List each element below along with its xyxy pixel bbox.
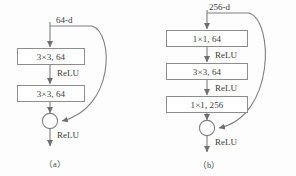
- block-conv-3x3-64-first: 3×3, 64: [17, 48, 85, 65]
- caption-a: （a）: [44, 157, 66, 169]
- block-conv-3x3-64: 3×3, 64: [166, 63, 248, 80]
- adder-node: [42, 113, 57, 128]
- relu-label-second: ReLU: [215, 84, 237, 93]
- adder-node: [199, 120, 214, 135]
- relu-label-middle: ReLU: [57, 69, 79, 78]
- block-conv-1x1-256: 1×1, 256: [166, 96, 248, 113]
- diagram-bottleneck-residual-block: 1×1, 64 3×3, 64 1×1, 256 256-d ReLU ReLU…: [148, 0, 296, 176]
- figure-canvas: 3×3, 64 3×3, 64 64-d ReLU ReLU （a） 1×1, …: [0, 0, 296, 176]
- diagram-basic-residual-block: 3×3, 64 3×3, 64 64-d ReLU ReLU （a）: [0, 0, 148, 176]
- relu-label-output: ReLU: [215, 138, 237, 147]
- block-conv-1x1-64: 1×1, 64: [166, 30, 248, 47]
- relu-label-output: ReLU: [57, 131, 79, 140]
- relu-label-first: ReLU: [215, 51, 237, 60]
- block-conv-3x3-64-second: 3×3, 64: [17, 85, 85, 102]
- input-dimension-label: 256-d: [209, 3, 230, 12]
- input-dimension-label: 64-d: [56, 16, 73, 25]
- caption-b: （b）: [198, 158, 220, 170]
